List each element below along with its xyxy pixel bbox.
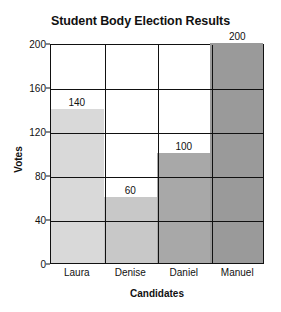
bar-cell — [210, 45, 263, 263]
bar-value-label: 200 — [229, 31, 246, 42]
bar-daniel[interactable] — [157, 153, 210, 263]
bar-cell — [157, 45, 210, 263]
bar-series — [51, 45, 263, 263]
bar-laura[interactable] — [51, 109, 104, 263]
y-tick-label: 0 — [0, 259, 46, 270]
x-axis-tick-labels: LauraDeniseDanielManuel — [50, 267, 264, 278]
chart-title: Student Body Election Results — [0, 14, 281, 28]
y-tick-label: 160 — [0, 83, 46, 94]
y-tick-label: 40 — [0, 215, 46, 226]
x-tick-label: Daniel — [157, 267, 211, 278]
x-tick-label: Denise — [104, 267, 158, 278]
x-tick-label: Manuel — [211, 267, 265, 278]
bar-value-label: 100 — [175, 141, 192, 152]
bar-denise[interactable] — [104, 197, 157, 263]
bar-cell — [104, 45, 157, 263]
x-axis-title: Candidates — [50, 288, 264, 299]
y-axis-title: Votes — [13, 130, 24, 190]
bar-value-label: 60 — [125, 185, 136, 196]
bar-value-label: 140 — [68, 97, 85, 108]
y-tick-label: 200 — [0, 39, 46, 50]
chart-root: Student Body Election Results 0408012016… — [0, 0, 281, 312]
plot-area — [50, 44, 264, 264]
x-tick-label: Laura — [50, 267, 104, 278]
bar-cell — [51, 45, 104, 263]
bar-manuel[interactable] — [210, 43, 263, 263]
